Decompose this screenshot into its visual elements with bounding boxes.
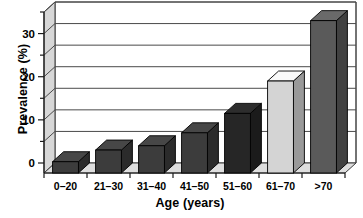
bar-front-face (268, 81, 294, 173)
bar-side-face (293, 71, 304, 173)
bar-side-face (336, 11, 347, 173)
x-tick-label-4: 51–60 (223, 180, 252, 192)
x-tick-label-1: 21–30 (94, 180, 123, 192)
bar-31-40 (139, 136, 176, 173)
y-tick-label-30: 30 (22, 28, 35, 40)
bar--70 (311, 11, 348, 173)
bar-chart: Prevalence (%) Age (years) 01020300–2021… (0, 0, 363, 218)
x-tick-label-3: 41–50 (180, 180, 209, 192)
bar-front-face (182, 133, 208, 173)
bar-side-face (250, 103, 261, 173)
plot-area: 01020300–2021–3031–4041–5051–6061–70>70 (0, 0, 363, 218)
chart-left-wall (44, 2, 55, 173)
x-tick-label-2: 31–40 (137, 180, 166, 192)
y-tick-label-20: 20 (22, 71, 35, 83)
y-tick-label-10: 10 (22, 114, 35, 126)
bar-front-face (53, 162, 79, 173)
bar-21-30 (96, 140, 133, 173)
x-tick-label-6: >70 (315, 180, 333, 192)
bar-front-face (311, 21, 337, 173)
bar-41-50 (182, 123, 219, 173)
bar-front-face (96, 150, 122, 173)
x-tick-label-0: 0–20 (54, 180, 78, 192)
x-tick-label-5: 61–70 (266, 180, 295, 192)
bar-front-face (139, 146, 165, 173)
y-tick-label-0: 0 (29, 157, 35, 169)
bar-61-70 (268, 71, 305, 173)
bar-51-60 (225, 103, 262, 173)
bar-front-face (225, 113, 251, 173)
